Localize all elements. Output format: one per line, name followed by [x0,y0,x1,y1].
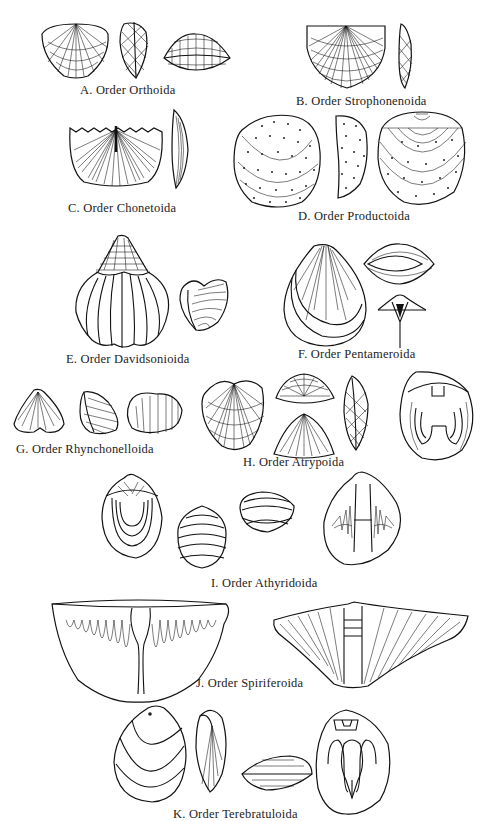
caption-j: J. Order Spiriferoida [196,676,303,691]
strophonenoida-dorsal-view [307,26,385,88]
caption-k: K. Order Terebratuloida [173,807,298,821]
davidsonioida-dorsal-view [76,235,169,348]
rhynchonelloida-anterior-view [127,393,182,434]
productoida-ventral-view [378,112,466,204]
figure-i-athyridoida [98,468,438,580]
figure-d-productoida [232,112,470,212]
caption-i: I. Order Athyridoida [211,576,317,591]
figure-k-terebratuloida [112,704,402,816]
caption-g: G. Order Rhynchonelloida [16,442,154,457]
caption-f: F. Order Pentameroida [298,347,415,362]
terebratuloida-interior-view [316,710,390,814]
spiriferoida-dorsal-view [274,602,468,688]
figure-e-davidsonioida [68,232,238,352]
caption-e: E. Order Davidsonioida [66,352,189,367]
chonetoida-dorsal-view [70,126,162,186]
figure-b-strophonenoida [305,18,435,90]
rhynchonelloida-dorsal-view [14,389,64,432]
caption-b: B. Order Strophonenoida [296,94,427,109]
caption-a: A. Order Orthoida [80,83,175,98]
orthoida-dorsal-view [42,24,108,78]
figure-f-pentameroida [282,240,442,350]
productoida-dorsal-view [234,115,320,207]
productoida-lateral-view [336,116,367,198]
figure-h-atrypoida [200,368,482,464]
caption-c: C. Order Chonetoida [68,201,176,216]
figure-g-rhynchonelloida [12,388,182,438]
terebratuloida-lateral-view [196,710,226,792]
orthoida-lateral-view [120,22,148,78]
atrypoida-lateral-view [344,376,368,450]
atrypoida-interior-view [400,372,473,460]
rhynchonelloida-lateral-view [80,392,118,434]
atrypoida-posterior-view [274,414,334,458]
pentameroida-spondylium-view [378,295,426,348]
atrypoida-dorsal-view [202,381,264,450]
chonetoida-lateral-view [172,110,188,188]
athyridoida-dorsal-view [102,474,162,558]
athyridoida-lateral-view [178,506,226,568]
brachiopod-orders-plate: A. Order Orthoida B. Order Strophonenoid… [0,0,488,821]
figure-c-chonetoida [68,110,198,190]
athyridoida-anterior-view [240,492,294,532]
figure-a-orthoida [38,18,238,80]
atrypoida-anterior-view [276,374,334,403]
athyridoida-interior-view [324,472,401,565]
pentameroida-anterior-view [364,244,434,284]
strophonenoida-lateral-view [399,24,412,88]
caption-d: D. Order Productoida [298,209,410,224]
orthoida-anterior-view [164,34,230,70]
pentameroida-dorsal-view [284,245,366,346]
davidsonioida-lateral-view [180,280,228,331]
terebratuloida-anterior-view [242,756,312,790]
terebratuloida-dorsal-view [114,706,186,802]
